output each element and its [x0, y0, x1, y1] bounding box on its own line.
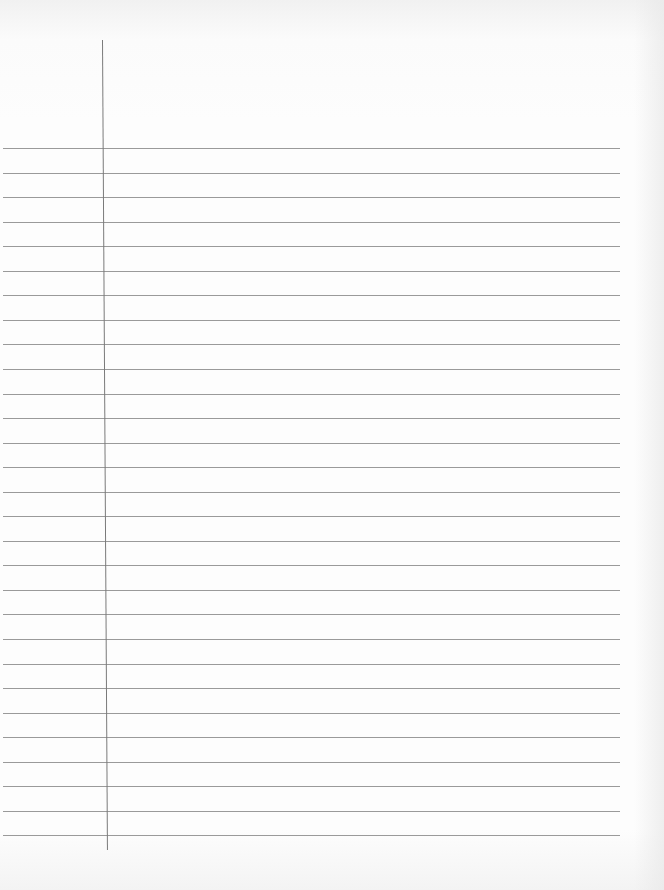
ruled-line [3, 320, 620, 321]
ruled-line [3, 835, 620, 836]
margin-line [102, 40, 108, 850]
ruled-line [3, 688, 620, 689]
lined-paper-sheet [0, 0, 664, 890]
ruled-line [3, 148, 620, 149]
ruled-line [3, 418, 620, 419]
ruled-line [3, 271, 620, 272]
ruled-line [3, 467, 620, 468]
ruled-line [3, 664, 620, 665]
ruled-line [3, 344, 620, 345]
ruled-line [3, 516, 620, 517]
ruled-line [3, 246, 620, 247]
ruled-line [3, 639, 620, 640]
ruled-line [3, 173, 620, 174]
ruled-line [3, 394, 620, 395]
ruled-line [3, 590, 620, 591]
ruled-line [3, 443, 620, 444]
ruled-line [3, 492, 620, 493]
ruled-line [3, 222, 620, 223]
ruled-line [3, 197, 620, 198]
ruled-line [3, 295, 620, 296]
ruled-line [3, 811, 620, 812]
ruled-line [3, 737, 620, 738]
ruled-line [3, 786, 620, 787]
ruled-line [3, 713, 620, 714]
ruled-line [3, 614, 620, 615]
ruled-line [3, 565, 620, 566]
ruled-line [3, 762, 620, 763]
ruled-line [3, 369, 620, 370]
ruled-line [3, 541, 620, 542]
